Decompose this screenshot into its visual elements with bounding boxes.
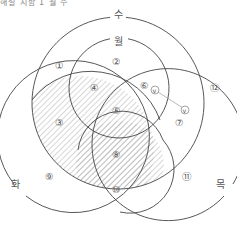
set-label-tue: 화 xyxy=(11,179,20,190)
marker-1: v xyxy=(153,87,157,95)
region-2: ② xyxy=(112,56,121,67)
region-8: ⑧ xyxy=(112,149,121,160)
region-5: ⑤ xyxy=(112,105,121,116)
region-10: ⑩ xyxy=(112,184,121,195)
set-label-wed: 수 xyxy=(114,9,123,20)
region-9: ⑨ xyxy=(45,171,54,182)
region-7: ⑦ xyxy=(175,117,184,128)
region-12: ⑫ xyxy=(210,82,220,93)
venn-diagram: 수 월 화 목 ① ② ③ ④ ⑤ ⑥ ⑦ ⑧ ⑨ ⑩ ⑪ ⑫ v v xyxy=(0,0,237,227)
marker-connector xyxy=(158,92,183,108)
set-label-mon: 월 xyxy=(114,36,123,47)
shaded-region xyxy=(6,76,164,224)
marker-2: v xyxy=(183,107,187,115)
region-3: ③ xyxy=(55,117,64,128)
set-label-thu: 목 xyxy=(216,179,225,190)
region-11: ⑪ xyxy=(182,171,192,182)
region-6: ⑥ xyxy=(140,80,149,91)
region-4: ④ xyxy=(90,82,99,93)
region-1: ① xyxy=(55,60,64,71)
